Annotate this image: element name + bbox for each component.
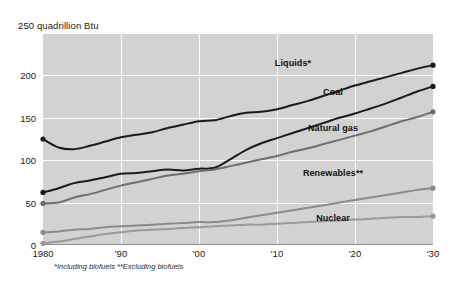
series-endpoint-marker: [40, 190, 45, 195]
x-axis-tick-label: '90: [115, 248, 127, 259]
chart-footnote: *Including biofuels **Excluding biofuels: [54, 262, 183, 271]
x-axis-tick-label: '30: [427, 248, 439, 259]
series-lines: [43, 33, 433, 245]
series-endpoint-marker: [430, 186, 435, 191]
series-line-nuclear: [43, 216, 433, 243]
energy-consumption-line-chart: 250 quadrillion Btu 050100150200 1980'90…: [0, 0, 456, 284]
series-endpoint-marker: [40, 136, 45, 141]
y-axis-tick-label: 200: [4, 70, 36, 81]
series-endpoint-marker: [430, 84, 435, 89]
series-line-coal: [43, 86, 433, 192]
series-endpoint-marker: [40, 201, 45, 206]
series-label-liquids: Liquids*: [275, 58, 311, 68]
series-label-naturalgas: Natural gas: [308, 123, 358, 133]
y-axis-tick-label: 150: [4, 112, 36, 123]
x-axis-tick-label: '20: [349, 248, 361, 259]
y-axis-tick-label: 50: [4, 197, 36, 208]
chart-title: 250 quadrillion Btu: [18, 20, 99, 31]
series-endpoint-marker: [430, 63, 435, 68]
series-line-naturalgas: [43, 112, 433, 204]
x-axis-tick-label: '00: [193, 248, 205, 259]
series-endpoint-marker: [430, 214, 435, 219]
y-axis-tick-label: 100: [4, 155, 36, 166]
x-axis-baseline: [43, 244, 433, 245]
y-axis-tick-label: 0: [4, 240, 36, 251]
series-endpoint-marker: [430, 109, 435, 114]
series-endpoint-marker: [40, 230, 45, 235]
x-axis-tick-label: '10: [271, 248, 283, 259]
x-axis-tick-label: 1980: [32, 248, 53, 259]
plot-area: [43, 33, 433, 245]
series-label-renewables: Renewables**: [303, 168, 363, 178]
series-label-nuclear: Nuclear: [316, 213, 350, 223]
series-label-coal: Coal: [323, 87, 343, 97]
